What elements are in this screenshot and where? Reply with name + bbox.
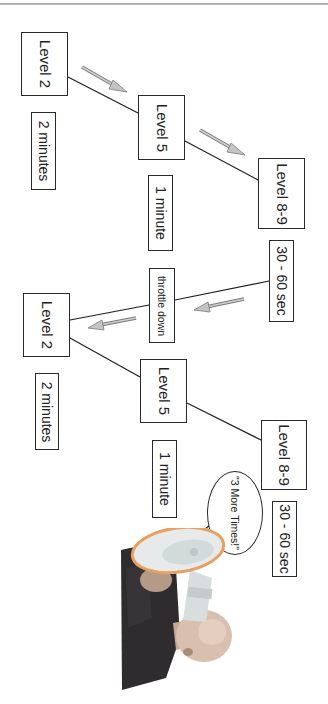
level-box-cycle2-level5: Level 5	[140, 359, 187, 423]
man-with-megaphone-photo	[118, 528, 233, 693]
connector-line	[70, 305, 149, 320]
level-box-cycle1-level8-9: Level 8-9	[258, 158, 305, 229]
duration-label: 30 - 60 sec	[277, 504, 293, 573]
level-box-cycle2-level8-9: Level 8-9	[261, 420, 307, 490]
throttle-down-box: throttle down	[149, 268, 175, 343]
duration-box-cycle2-level5: 1 minute	[152, 440, 177, 518]
duration-label: 1 minute	[153, 186, 169, 240]
level-label: Level 2	[36, 40, 53, 88]
connector-line	[70, 338, 140, 377]
level-box-cycle1-level2: Level 2	[21, 32, 68, 96]
duration-label: 1 minute	[157, 452, 173, 506]
direction-arrow-icon	[194, 299, 244, 312]
transition-label: throttle down	[156, 275, 168, 335]
connector-line	[185, 141, 258, 180]
direction-arrow-icon	[88, 318, 136, 330]
connector-line	[187, 403, 261, 440]
direction-arrow-icon	[200, 130, 245, 155]
level-box-cycle1-level5: Level 5	[138, 95, 185, 160]
duration-box-cycle2-level2: 2 minutes	[35, 373, 59, 450]
duration-box-cycle2-level8-9: 30 - 60 sec	[272, 501, 297, 577]
duration-label: 30 - 60 sec	[274, 246, 290, 315]
level-label: Level 8-9	[273, 163, 290, 225]
connector-line	[68, 77, 138, 113]
level-label: Level 2	[38, 301, 55, 349]
duration-label: 2 minutes	[39, 381, 55, 442]
level-label: Level 8-9	[276, 424, 293, 486]
duration-box-cycle1-level5: 1 minute	[148, 175, 173, 251]
duration-box-cycle1-level2: 2 minutes	[31, 112, 56, 190]
connector-line	[175, 281, 269, 300]
level-box-cycle2-level2: Level 2	[23, 293, 70, 357]
level-label: Level 5	[155, 367, 172, 415]
duration-label: 2 minutes	[36, 121, 52, 182]
level-label: Level 5	[153, 103, 170, 151]
duration-box-cycle1-level8-9: 30 - 60 sec	[269, 240, 294, 322]
